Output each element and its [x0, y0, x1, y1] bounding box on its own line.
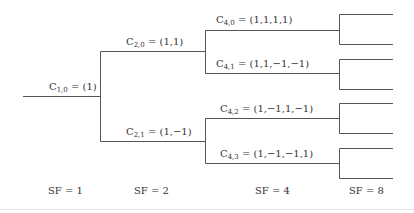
code-value: = (1,−1,1,−1)	[242, 103, 313, 114]
code-value: = (1)	[71, 81, 97, 92]
code-name: C	[49, 81, 57, 92]
code-value: = (1,1,−1,−1)	[238, 58, 309, 69]
code-tree-diagram	[0, 0, 414, 213]
bottom-divider	[0, 209, 414, 210]
code-label-c42: C4,2 = (1,−1,1,−1)	[220, 103, 313, 115]
code-index: 2,1	[134, 131, 145, 139]
code-name: C	[126, 36, 134, 47]
code-name: C	[220, 103, 228, 114]
code-index: 2,0	[134, 41, 145, 49]
code-value: = (1,1)	[148, 36, 183, 47]
sf-label-4: SF = 4	[255, 185, 290, 196]
code-label-c10: C1,0 = (1)	[49, 81, 97, 93]
code-name: C	[126, 126, 134, 137]
code-value: = (1,1,1,1)	[238, 14, 292, 25]
sf-label-1: SF = 1	[48, 185, 83, 196]
code-index: 4,0	[224, 19, 235, 27]
code-label-c40: C4,0 = (1,1,1,1)	[216, 14, 292, 26]
code-label-c43: C4,3 = (1,−1,−1,1)	[220, 148, 313, 160]
sf-label-8: SF = 8	[349, 185, 384, 196]
code-value: = (1,−1,−1,1)	[242, 148, 313, 159]
code-label-c41: C4,1 = (1,1,−1,−1)	[216, 58, 309, 70]
code-label-c21: C2,1 = (1,−1)	[126, 126, 192, 138]
code-label-c20: C2,0 = (1,1)	[126, 36, 183, 48]
tree-branches	[23, 15, 393, 179]
code-index: 4,2	[228, 108, 239, 116]
code-index: 4,1	[224, 63, 235, 71]
code-value: = (1,−1)	[148, 126, 192, 137]
code-name: C	[216, 58, 224, 69]
code-index: 4,3	[228, 153, 239, 161]
sf-label-2: SF = 2	[134, 185, 169, 196]
code-name: C	[216, 14, 224, 25]
code-name: C	[220, 148, 228, 159]
code-index: 1,0	[57, 86, 68, 94]
